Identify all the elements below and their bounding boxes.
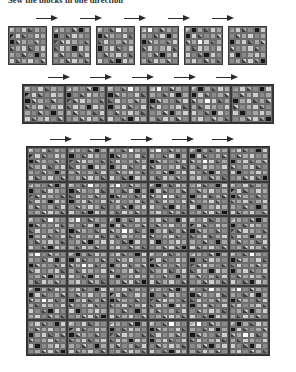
triangle — [203, 154, 207, 157]
triangle — [222, 246, 226, 249]
triangle — [176, 117, 181, 121]
arrow-head — [51, 15, 58, 21]
triangle — [230, 28, 234, 32]
triangle — [266, 99, 271, 103]
triangle — [150, 235, 154, 238]
block-quilt-r1c2 — [108, 182, 148, 217]
quilt-assembly-page: Sew the blocks in one direction — [0, 0, 296, 372]
triangle — [231, 333, 235, 336]
triangle — [176, 99, 181, 103]
patch — [162, 116, 169, 122]
triangle — [129, 53, 133, 57]
block-quilt-r1c0 — [27, 182, 67, 217]
block-quilt-r1c5 — [229, 182, 269, 217]
triangle — [231, 235, 235, 238]
triangle — [29, 195, 33, 198]
triangle — [141, 93, 146, 97]
triangle — [216, 299, 220, 302]
triangle — [55, 350, 59, 353]
triangle — [250, 269, 254, 272]
block-quilt-r3c4 — [188, 251, 228, 286]
triangle — [48, 288, 52, 291]
triangle — [243, 253, 247, 256]
triangle — [231, 229, 235, 232]
block-row2-1 — [65, 85, 107, 123]
triangle — [150, 105, 155, 109]
triangle — [216, 229, 220, 232]
triangle — [76, 293, 80, 296]
arrow-head — [183, 15, 190, 21]
triangle — [242, 59, 246, 63]
arrow-head — [227, 15, 234, 21]
triangle — [16, 59, 20, 63]
block-row2-0 — [23, 85, 65, 123]
triangle — [115, 111, 120, 115]
triangle — [256, 333, 260, 336]
triangle — [261, 40, 265, 44]
triangle — [48, 165, 52, 168]
block-quilt-r0c5 — [229, 147, 269, 182]
triangle — [237, 275, 241, 278]
triangle — [197, 350, 201, 353]
triangle — [247, 117, 252, 121]
triangle — [250, 288, 254, 291]
triangle — [222, 176, 226, 179]
triangle — [203, 280, 207, 283]
sew-direction-arrow — [48, 73, 72, 81]
triangle — [150, 195, 154, 198]
triangle — [35, 176, 39, 179]
patch — [141, 210, 147, 215]
block-quilt-r2c3 — [148, 216, 188, 251]
triangle — [204, 59, 208, 63]
triangle — [88, 149, 92, 152]
triangle — [66, 59, 70, 63]
triangle — [122, 205, 126, 208]
triangle — [243, 149, 247, 152]
patch — [40, 58, 46, 64]
triangle — [163, 189, 167, 192]
triangle — [150, 269, 154, 272]
triangle — [231, 165, 235, 168]
triangle — [69, 218, 73, 221]
triangle — [263, 211, 267, 214]
triangle — [231, 189, 235, 192]
triangle — [61, 211, 65, 214]
triangle — [76, 205, 80, 208]
triangle — [222, 293, 226, 296]
triangle — [176, 160, 180, 163]
assembled-quilt — [26, 146, 270, 356]
triangle — [233, 87, 238, 91]
triangle — [29, 149, 33, 152]
triangle — [110, 253, 114, 256]
triangle — [48, 333, 52, 336]
block-row1-5 — [228, 26, 267, 65]
triangle — [173, 46, 177, 50]
triangle — [250, 200, 254, 203]
triangle — [35, 328, 39, 331]
patch — [221, 210, 227, 215]
triangle — [110, 218, 114, 221]
patch — [259, 116, 266, 122]
triangle — [110, 160, 114, 163]
block-quilt-r1c1 — [67, 182, 107, 217]
triangle — [142, 315, 146, 318]
triangle — [55, 160, 59, 163]
triangle — [35, 240, 39, 243]
joined-strip-row — [22, 84, 274, 124]
triangle — [190, 149, 194, 152]
sew-direction-arrow — [80, 14, 104, 22]
triangle — [176, 176, 180, 179]
patch — [262, 245, 268, 250]
triangle — [110, 288, 114, 291]
triangle — [129, 246, 133, 249]
triangle — [88, 322, 92, 325]
triangle — [182, 280, 186, 283]
triangle — [231, 322, 235, 325]
triangle — [69, 184, 73, 187]
triangle — [48, 315, 52, 318]
patch — [197, 116, 204, 122]
triangle — [128, 105, 133, 109]
triangle — [42, 275, 46, 278]
triangle — [176, 333, 180, 336]
triangle — [203, 171, 207, 174]
